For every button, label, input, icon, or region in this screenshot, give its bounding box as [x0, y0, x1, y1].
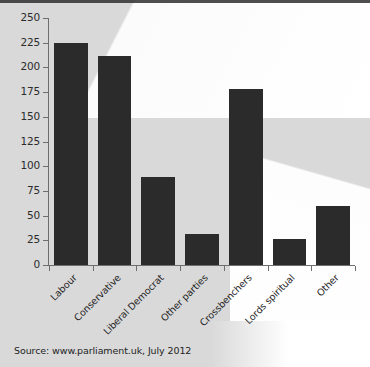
y-axis-tick: 150 [0, 117, 48, 118]
y-axis-tick: 75 [0, 191, 48, 192]
x-axis-label-text: Labour [48, 272, 79, 303]
x-axis-tick-mark [180, 266, 181, 271]
y-axis-tick-label: 100 [21, 159, 40, 171]
y-axis-tick-mark [43, 265, 48, 266]
x-axis-tick-mark [93, 266, 94, 271]
y-axis-tick-mark [43, 216, 48, 217]
y-axis-tick-label: 25 [27, 233, 40, 245]
y-axis-tick-label: 75 [27, 184, 40, 196]
chart-page: 0255075100125150175200225250 LabourConse… [0, 0, 370, 367]
y-axis-tick-mark [43, 18, 48, 19]
y-axis-tick: 125 [0, 142, 48, 143]
y-axis-tick-mark [43, 191, 48, 192]
y-axis-tick-mark [43, 240, 48, 241]
x-axis-tick-mark [268, 266, 269, 271]
y-axis-tick: 50 [0, 216, 48, 217]
x-axis-label-text: Other [314, 272, 341, 299]
x-axis-tick-mark [224, 266, 225, 271]
bar [98, 56, 132, 265]
y-axis-tick-label: 150 [21, 110, 40, 122]
y-axis-tick-mark [43, 117, 48, 118]
y-axis-tick: 100 [0, 166, 48, 167]
y-axis-tick-label: 125 [21, 135, 40, 147]
x-axis-tick-mark [49, 266, 50, 271]
bar [54, 43, 88, 265]
y-axis-tick-mark [43, 43, 48, 44]
y-axis-tick-label: 0 [34, 258, 40, 270]
y-axis-tick-mark [43, 92, 48, 93]
y-axis-tick: 200 [0, 67, 48, 68]
x-axis-tick-mark [136, 266, 137, 271]
y-axis-tick-mark [43, 67, 48, 68]
y-axis-tick-label: 200 [21, 60, 40, 72]
y-axis-tick-label: 175 [21, 85, 40, 97]
y-axis-tick: 25 [0, 240, 48, 241]
y-axis-tick: 0 [0, 265, 48, 266]
y-axis-tick-label: 225 [21, 36, 40, 48]
y-axis-tick-mark [43, 166, 48, 167]
y-axis-tick: 225 [0, 43, 48, 44]
y-axis-tick: 175 [0, 92, 48, 93]
x-axis-tick-mark [355, 266, 356, 271]
y-axis-tick-label: 50 [27, 209, 40, 221]
x-axis-tick-mark [311, 266, 312, 271]
bar-chart: 0255075100125150175200225250 LabourConse… [0, 0, 370, 367]
y-axis-tick-mark [43, 142, 48, 143]
source-note: Source: www.parliament.uk, July 2012 [14, 345, 191, 356]
y-axis-tick-label: 250 [21, 11, 40, 23]
y-axis-tick: 250 [0, 18, 48, 19]
x-axis-labels: LabourConservativeLiberal DemocratOther … [49, 272, 369, 344]
